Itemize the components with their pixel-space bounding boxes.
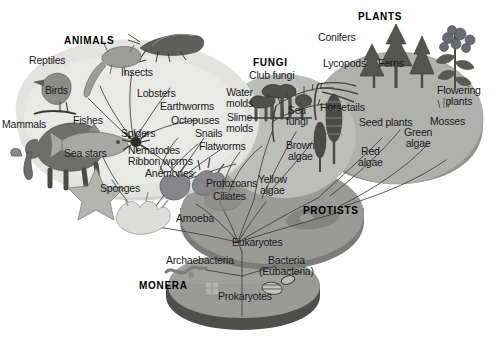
taxon-label-amoeba: Amoeba bbox=[176, 213, 214, 224]
taxon-label-water-molds: Water molds bbox=[226, 87, 253, 108]
taxon-label-insects: Insects bbox=[121, 67, 153, 78]
taxon-label-ciliates: Ciliates bbox=[213, 191, 246, 202]
taxon-label-club-fungi: Club fungi bbox=[249, 70, 294, 81]
kingdom-label-monera: MONERA bbox=[139, 281, 188, 291]
taxon-label-earthworms: Earthworms bbox=[160, 101, 214, 112]
taxon-label-brown-algae: Brown algae bbox=[286, 140, 315, 161]
taxon-label-yellow-algae: Yellow algae bbox=[258, 174, 287, 195]
taxon-label-protozoans: Protozoans bbox=[206, 178, 257, 189]
taxon-label-mosses: Mosses bbox=[430, 116, 465, 127]
taxon-label-prokaryotes: Prokaryotes bbox=[218, 291, 272, 302]
taxon-label-eukaryotes: Eukaryotes bbox=[232, 237, 283, 248]
taxon-label-lobsters: Lobsters bbox=[137, 88, 176, 99]
taxon-label-reptiles: Reptiles bbox=[29, 55, 65, 66]
taxon-label-snails: Snails bbox=[195, 128, 222, 139]
taxon-label-octopuses: Octopuses bbox=[171, 115, 219, 126]
taxon-label-ferns: Ferns bbox=[378, 58, 404, 69]
taxon-label-horsetails: Horsetails bbox=[320, 102, 365, 113]
taxon-label-slime-molds: Slime molds bbox=[226, 112, 253, 133]
kingdom-label-protists: PROTISTS bbox=[303, 206, 359, 216]
taxon-label-lycopods: Lycopods bbox=[323, 58, 366, 69]
taxon-label-ribbon-worms: Ribbon worms bbox=[128, 156, 193, 167]
taxon-label-sea-stars: Sea stars bbox=[64, 148, 107, 159]
taxon-label-green-algae: Green algae bbox=[404, 127, 432, 148]
taxon-label-anemones: Anemones bbox=[145, 168, 194, 179]
tree-graphic bbox=[0, 0, 496, 338]
taxon-label-flowering-plants: Flowering plants bbox=[437, 85, 481, 106]
kingdom-label-animals: ANIMALS bbox=[64, 36, 114, 46]
taxon-label-spiders: Spiders bbox=[121, 128, 155, 139]
taxon-label-mammals: Mammals bbox=[2, 119, 46, 130]
flower-illustration bbox=[436, 26, 475, 89]
taxon-label-conifers: Conifers bbox=[318, 32, 356, 43]
kingdom-label-plants: PLANTS bbox=[358, 12, 402, 22]
taxon-label-fishes: Fishes bbox=[73, 115, 103, 126]
taxon-label-sponges: Sponges bbox=[100, 183, 140, 194]
taxon-label-sea-fungi: Sea fungi bbox=[286, 105, 308, 126]
taxon-label-red-algae: Red algae bbox=[358, 146, 383, 167]
phylogenetic-tree-figure: ANIMALS FUNGI PLANTS PROTISTS MONERA Rep… bbox=[0, 0, 496, 338]
taxon-label-flatworms: Flatworms bbox=[199, 141, 246, 152]
kingdom-label-fungi: FUNGI bbox=[253, 58, 288, 68]
taxon-label-birds: Birds bbox=[45, 85, 68, 96]
taxon-label-archaebacteria: Archaebacteria bbox=[166, 255, 234, 266]
taxon-label-bacteria: Bacteria (Eubacteria) bbox=[259, 255, 314, 276]
